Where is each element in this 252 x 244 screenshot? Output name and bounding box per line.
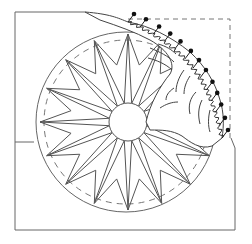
pin-head-icon — [226, 128, 231, 133]
quilt-diagram — [0, 0, 252, 244]
pin-head-icon — [204, 68, 209, 73]
pin-head-icon — [168, 31, 173, 36]
pin-head-icon — [178, 39, 183, 44]
pin-head-icon — [157, 24, 162, 29]
pin-head-icon — [223, 116, 228, 121]
illustration — [0, 0, 252, 244]
pin-head-icon — [144, 17, 149, 22]
pin-head-icon — [210, 79, 215, 84]
pin-head-icon — [189, 49, 194, 54]
center-circle — [109, 103, 147, 141]
pin-head-icon — [215, 91, 220, 96]
pin-head-icon — [132, 12, 137, 17]
pin-head-icon — [197, 58, 202, 63]
pin-head-icon — [219, 102, 224, 107]
